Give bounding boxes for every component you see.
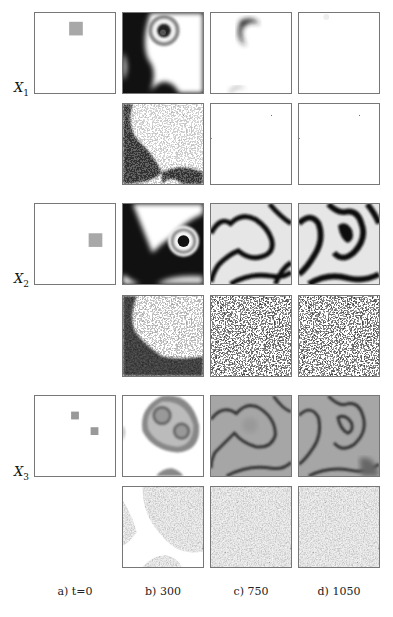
column-label-a: a) t=0 [34,585,116,598]
panel-x2-t1050-field [298,203,380,285]
panel-x1-t1050-noise [298,103,380,185]
panel-x3-t1050-field [298,395,380,477]
row-label-sub: 2 [23,279,29,289]
row-label-x1: X1 [14,80,29,98]
column-label-b: b) 300 [122,585,204,598]
panel-x1-t300-field [122,12,204,94]
column-label-d: d) 1050 [298,585,380,598]
panel-x1-t0 [34,12,116,94]
panel-x1-t750-noise [210,103,292,185]
panel-x3-t750-field [210,395,292,477]
panel-x3-t750-noise [210,486,292,568]
panel-x3-t0 [34,395,116,477]
column-label-c: c) 750 [210,585,292,598]
panel-x2-t750-field [210,203,292,285]
row-label-text: X [14,80,23,95]
panel-x3-t300-field [122,395,204,477]
panel-x2-t0 [34,203,116,285]
row-label-x3: X3 [14,464,29,482]
panel-x2-t1050-noise [298,295,380,377]
panel-x1-t300-noise [122,103,204,185]
panel-x1-t750-field [210,12,292,94]
row-label-text: X [14,271,23,286]
panel-x1-t1050-field [298,12,380,94]
panel-x2-t300-field [122,203,204,285]
panel-x2-t750-noise [210,295,292,377]
row-label-text: X [14,464,23,479]
row-label-sub: 1 [23,88,29,98]
panel-x3-t300-noise [122,486,204,568]
panel-x3-t1050-noise [298,486,380,568]
row-label-sub: 3 [23,472,29,482]
row-label-x2: X2 [14,271,29,289]
panel-x2-t300-noise [122,295,204,377]
